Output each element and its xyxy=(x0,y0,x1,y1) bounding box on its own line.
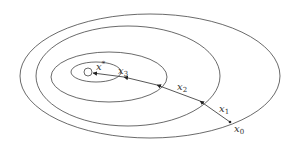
step-3-arrow xyxy=(124,77,157,85)
minimum-point xyxy=(84,68,92,76)
descent-path xyxy=(93,73,230,122)
contour-diagram: x* x3 x2 x1 x0 xyxy=(0,0,297,145)
label-x2: x2 xyxy=(177,81,187,94)
label-xstar: x* xyxy=(96,60,106,72)
label-x0: x0 xyxy=(234,123,244,136)
contour-lines xyxy=(20,14,280,138)
label-x1: x1 xyxy=(219,103,229,116)
contour-third xyxy=(51,52,167,102)
contour-outer xyxy=(20,14,280,138)
x0-point xyxy=(229,121,232,124)
